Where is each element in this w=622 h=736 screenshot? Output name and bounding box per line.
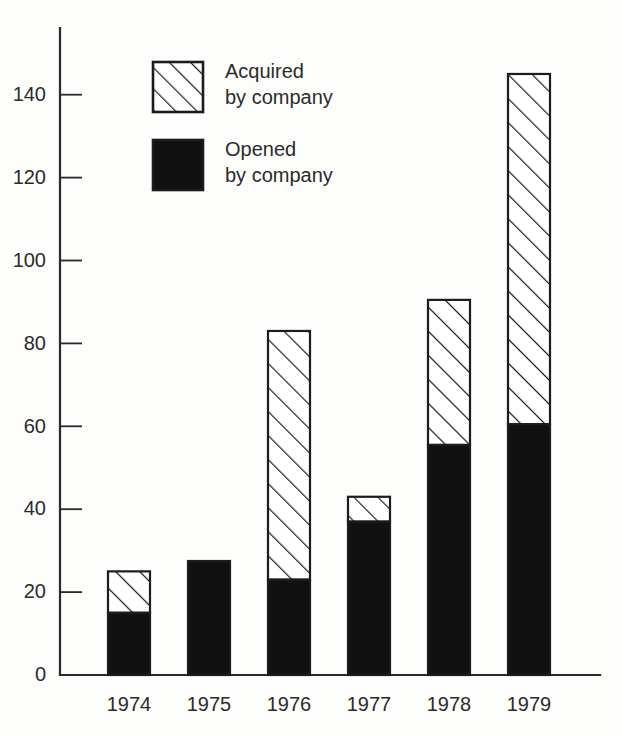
bar-segment-acquired-1977: [348, 497, 390, 522]
bar-group-1979: [508, 74, 550, 675]
bar-group-1975: [188, 561, 230, 675]
bar-segment-acquired-1976: [268, 331, 310, 580]
legend-label-line1-acquired: Acquired: [225, 60, 304, 82]
y-axis-tick-label: 120: [13, 166, 46, 188]
y-axis-tick-label: 100: [13, 249, 46, 271]
bar-segment-opened-1975: [188, 561, 230, 675]
bar-group-1976: [268, 331, 310, 675]
bar-segment-opened-1977: [348, 522, 390, 675]
legend-swatch-acquired[interactable]: [153, 62, 203, 112]
x-axis-label-1976: 1976: [267, 693, 312, 715]
x-axis-label-1978: 1978: [427, 693, 472, 715]
y-axis-tick-label: 60: [24, 415, 46, 437]
y-axis-tick-label: 80: [24, 332, 46, 354]
bar-group-1974: [108, 571, 150, 675]
bar-group-1977: [348, 497, 390, 675]
bar-segment-opened-1974: [108, 613, 150, 675]
bar-group-1978: [428, 300, 470, 675]
bar-segment-acquired-1979: [508, 74, 550, 424]
bar-segment-opened-1979: [508, 424, 550, 675]
y-axis-tick-label: 0: [35, 663, 46, 685]
stacked-bar-chart: 020406080100120140 197419751976197719781…: [0, 0, 622, 736]
legend-label-line1-opened: Opened: [225, 138, 296, 160]
legend-label-line2-opened: by company: [225, 164, 333, 186]
legend-swatch-opened[interactable]: [153, 140, 203, 190]
x-axis-label-1977: 1977: [347, 693, 392, 715]
x-axis-label-1974: 1974: [107, 693, 152, 715]
bar-segment-opened-1976: [268, 580, 310, 675]
chart-container: 020406080100120140 197419751976197719781…: [0, 0, 622, 736]
bar-segment-acquired-1974: [108, 571, 150, 612]
x-axis-label-1975: 1975: [187, 693, 232, 715]
bar-segment-acquired-1978: [428, 300, 470, 445]
y-axis-tick-label: 20: [24, 580, 46, 602]
bar-segment-opened-1978: [428, 445, 470, 675]
y-axis-tick-label: 40: [24, 497, 46, 519]
y-axis-tick-label: 140: [13, 83, 46, 105]
x-axis-label-1979: 1979: [507, 693, 552, 715]
legend-label-line2-acquired: by company: [225, 86, 333, 108]
